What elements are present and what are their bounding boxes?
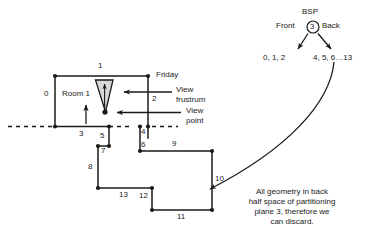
edge-10-label: 10 xyxy=(215,175,224,184)
discard-annotation-line3: plane 3, therefore we xyxy=(218,208,366,217)
room-1-label: Room 1 xyxy=(62,90,90,99)
discard-annotation-line2: half space of partitioning xyxy=(218,198,366,207)
view-frustum-shape xyxy=(96,80,114,112)
edge-4-label: 4 xyxy=(141,128,145,137)
view-point-label-line2: point xyxy=(186,117,203,126)
edge-13-label: 13 xyxy=(119,191,128,200)
view-point-label-line1: View xyxy=(186,107,203,116)
corridor-polygon-edges xyxy=(98,127,212,211)
edge-11-label: 11 xyxy=(177,213,185,222)
bsp-back-branch-arrow xyxy=(318,34,331,50)
view-frustum-label-line1: View xyxy=(176,86,193,95)
bsp-front-branch-arrow xyxy=(298,34,308,50)
discard-annotation-curve xyxy=(210,62,334,189)
edge-0-label: 0 xyxy=(44,90,48,99)
bsp-back-leaf-label: 4, 5, 6…13 xyxy=(313,54,352,63)
view-point-dot xyxy=(102,109,107,114)
friday-label: Friday xyxy=(156,71,178,80)
edge-7-label: 7 xyxy=(101,147,105,156)
edge-2-label: 2 xyxy=(152,95,156,104)
edge-12-label: 12 xyxy=(139,192,148,201)
edge-5-label: 5 xyxy=(100,132,104,141)
bsp-front-leaf-label: 0, 1, 2 xyxy=(263,54,285,63)
edge-6-label: 6 xyxy=(141,141,145,150)
bsp-root-node-label: 3 xyxy=(310,23,314,31)
edge-3-label: 3 xyxy=(79,130,83,139)
edge-1-label: 1 xyxy=(98,62,102,71)
discard-annotation-line4: can discard. xyxy=(218,218,366,227)
bsp-title-label: BSP xyxy=(302,8,318,17)
discard-annotation-line1: All geometry in back xyxy=(218,188,366,197)
bsp-back-label: Back xyxy=(322,22,340,31)
view-frustum-label-line2: frustrum xyxy=(176,96,205,105)
bsp-front-label: Front xyxy=(276,22,295,31)
edge-9-label: 9 xyxy=(172,140,176,149)
bsp-diagram-figure: 0 1 2 3 4 5 6 7 8 9 10 11 12 13 Room 1 F… xyxy=(0,0,370,233)
edge-8-label: 8 xyxy=(88,163,92,172)
